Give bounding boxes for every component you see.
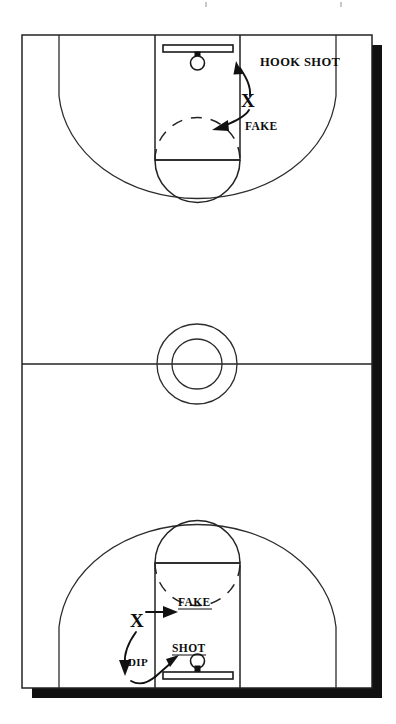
basketball-court-diagram: Basketball Full Court Play Diagram [0,0,396,724]
scan-artifacts [205,2,342,7]
label-fake-top: FAKE [245,120,278,132]
player-marker-top: X [241,90,255,111]
backboard-bottom [163,672,233,679]
label-fake-bottom: FAKE [178,596,211,608]
court-svg: Basketball Full Court Play Diagram [0,0,396,724]
label-shot: SHOT [172,642,206,654]
scan-speck-1 [205,2,207,7]
rim-top [191,56,205,70]
shadow-right [372,45,382,698]
label-hook-shot: HOOK SHOT [260,55,341,69]
court-surface [22,35,372,688]
player-marker-bottom: X [130,610,144,631]
backboard-top [163,45,233,52]
scan-speck-2 [340,2,342,7]
shadow-bottom [32,688,382,698]
rim-stem-bottom [195,666,200,672]
label-dip: DIP [128,656,148,668]
